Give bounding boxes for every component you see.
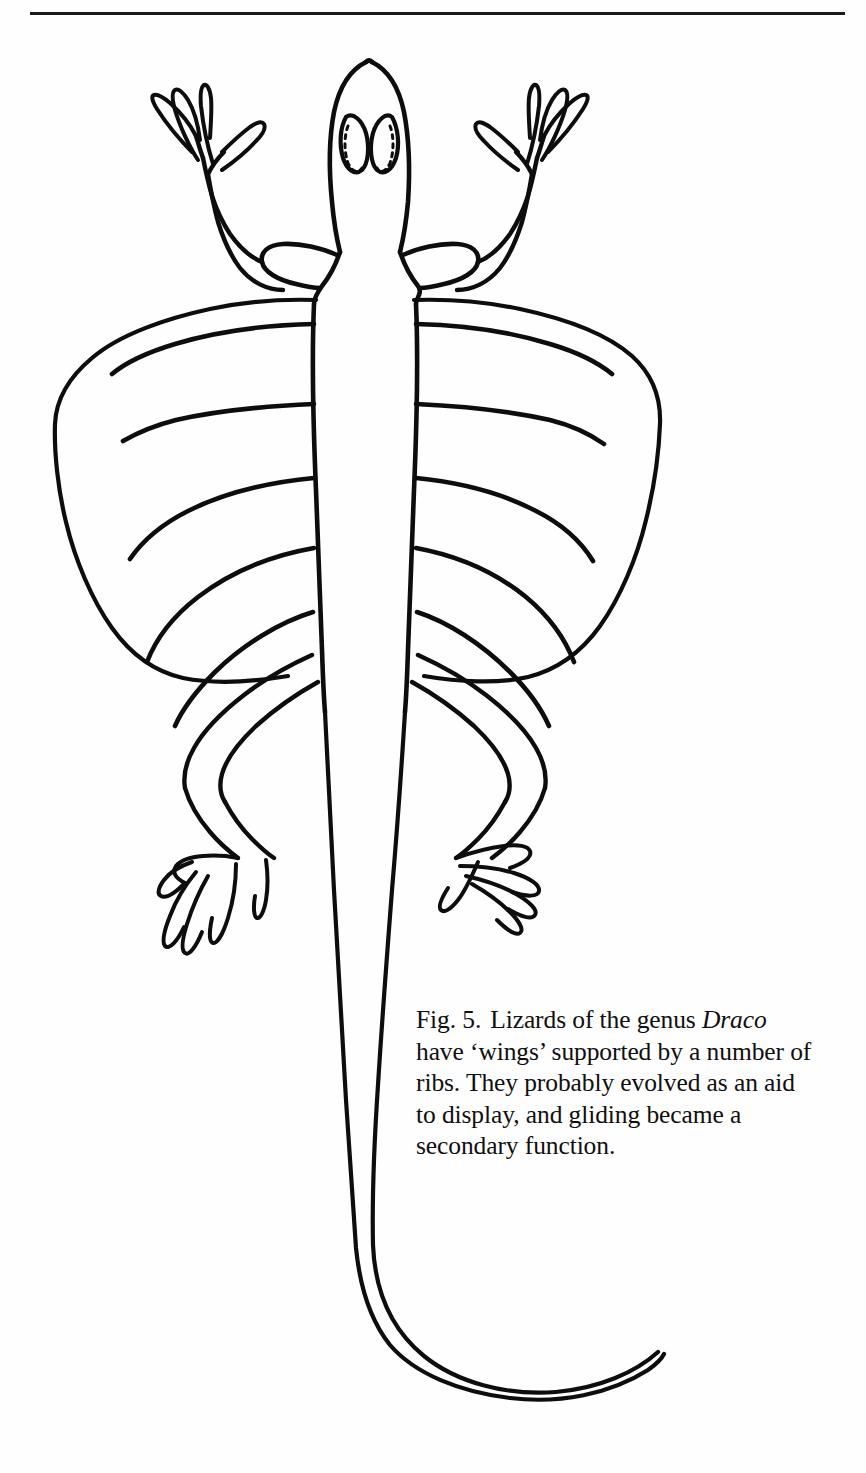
draco-lizard-illustration bbox=[0, 0, 866, 1473]
right-hindlimb bbox=[412, 655, 546, 934]
genus-name: Draco bbox=[702, 1005, 767, 1034]
figure-caption-text-after: have ‘wings’ supported by a number of ri… bbox=[416, 1037, 811, 1161]
right-patagium bbox=[414, 300, 660, 682]
page-canvas: Fig. 5.Lizards of the genus Draco have ‘… bbox=[0, 0, 866, 1473]
right-patagium-ribs bbox=[416, 324, 612, 726]
left-hindlimb bbox=[159, 655, 318, 954]
right-eye bbox=[371, 115, 398, 172]
body-trunk bbox=[313, 304, 417, 712]
left-patagium bbox=[55, 300, 316, 682]
neck-shoulder bbox=[262, 244, 479, 304]
left-patagium-ribs bbox=[112, 324, 314, 726]
figure-caption: Fig. 5.Lizards of the genus Draco have ‘… bbox=[416, 1004, 818, 1162]
figure-caption-text-before: Lizards of the genus bbox=[490, 1005, 695, 1034]
left-eye bbox=[341, 115, 368, 172]
figure-caption-label: Fig. 5. bbox=[416, 1005, 481, 1034]
